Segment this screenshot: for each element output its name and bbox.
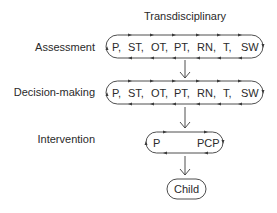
member: PCP: [197, 137, 220, 149]
member: P,: [112, 87, 121, 99]
stage-label-decision-making: Decision-making: [14, 86, 95, 98]
member: SW: [241, 87, 259, 99]
member: PT,: [174, 87, 190, 99]
stage-label-assessment: Assessment: [35, 41, 95, 53]
assessment-members: P, ST, OT, PT, RN, T, SW: [112, 41, 259, 53]
down-arrow-icon: [180, 156, 190, 175]
member: RN,: [197, 41, 216, 53]
child-node: Child: [167, 179, 206, 199]
member: OT,: [151, 41, 168, 53]
member: ST,: [128, 41, 144, 53]
member: P: [153, 137, 160, 149]
member: P,: [112, 41, 121, 53]
member: ST,: [128, 87, 144, 99]
down-arrow-icon: [180, 107, 190, 128]
member: T,: [223, 87, 232, 99]
decision-making-members: P, ST, OT, PT, RN, T, SW: [112, 87, 259, 99]
diagram-title: Transdisciplinary: [144, 10, 227, 22]
member: SW: [241, 41, 259, 53]
member: PT,: [174, 41, 190, 53]
intervention-members: P PCP: [153, 137, 220, 149]
member: OT,: [151, 87, 168, 99]
transdisciplinary-diagram: Transdisciplinary Assessment: [0, 0, 277, 213]
member: T,: [223, 41, 232, 53]
down-arrow-icon: [180, 60, 190, 78]
member: RN,: [197, 87, 216, 99]
stage-label-intervention: Intervention: [38, 133, 95, 145]
child-label: Child: [174, 183, 199, 195]
